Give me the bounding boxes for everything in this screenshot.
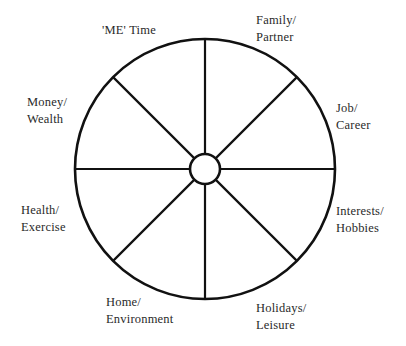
- label-money-wealth-line1: Money/: [27, 94, 67, 111]
- spoke-diagonal-upper-right: [216, 77, 297, 158]
- label-interests-hobbies-line1: Interests/: [336, 203, 384, 220]
- label-family-partner-line1: Family/: [256, 12, 296, 29]
- label-health-exercise-line1: Health/: [21, 202, 66, 219]
- label-home-environment-line1: Home/: [106, 294, 173, 311]
- inner-hub-circle: [190, 154, 220, 184]
- label-money-wealth-line2: Wealth: [27, 111, 67, 128]
- label-home-environment-line2: Environment: [106, 311, 173, 328]
- label-home-environment: Home/ Environment: [106, 294, 173, 328]
- spoke-diagonal-upper-left: [113, 77, 194, 158]
- label-holidays-leisure-line2: Leisure: [256, 317, 306, 334]
- label-job-career-line2: Career: [336, 117, 371, 134]
- label-family-partner-line2: Partner: [256, 29, 296, 46]
- label-interests-hobbies-line2: Hobbies: [336, 220, 384, 237]
- label-health-exercise: Health/ Exercise: [21, 202, 66, 236]
- label-interests-hobbies: Interests/ Hobbies: [336, 203, 384, 237]
- spoke-diagonal-lower-right: [216, 180, 297, 261]
- label-money-wealth: Money/ Wealth: [27, 94, 67, 128]
- label-health-exercise-line2: Exercise: [21, 219, 66, 236]
- wheel-diagram: [0, 0, 406, 346]
- label-job-career: Job/ Career: [336, 100, 371, 134]
- spoke-diagonal-lower-left: [113, 180, 194, 261]
- label-holidays-leisure-line1: Holidays/: [256, 300, 306, 317]
- label-family-partner: Family/ Partner: [256, 12, 296, 46]
- label-holidays-leisure: Holidays/ Leisure: [256, 300, 306, 334]
- label-job-career-line1: Job/: [336, 100, 371, 117]
- label-me-time-line1: 'ME' Time: [102, 22, 156, 39]
- label-me-time: 'ME' Time: [102, 22, 156, 39]
